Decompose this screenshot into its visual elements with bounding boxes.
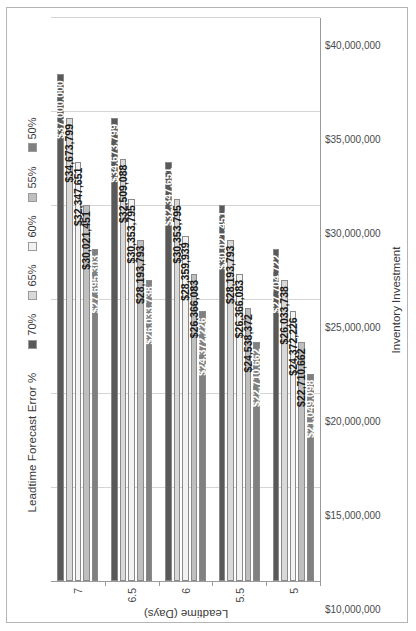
legend-swatch-icon	[28, 291, 37, 300]
legend-item-label: 70%	[26, 314, 38, 336]
value-axis-label-row: $10,000,000$15,000,000$20,000,000$25,000…	[325, 18, 385, 582]
bar-row: $26,366,083	[235, 18, 244, 581]
plot-area: $37,000,000$34,673,799$32,347,651$30,021…	[51, 18, 321, 582]
bar-row: $26,366,083	[190, 18, 199, 581]
legend-item-55[interactable]: 55%	[26, 167, 38, 202]
category-tick-label: 7	[72, 588, 84, 594]
category-axis-ticks: 76.565.55	[51, 582, 321, 606]
legend-swatch-icon	[28, 340, 37, 349]
bar-50-6[interactable]: $24,372,226	[199, 311, 206, 581]
bar-group: $32,347,651$30,353,795$28,359,939$26,366…	[159, 18, 213, 581]
bar-row: $32,347,651	[164, 18, 173, 581]
legend-swatch-icon	[28, 144, 37, 153]
chart-frame-border: Leadtime Forecast Error % 70%65%60%55%50…	[6, 7, 408, 623]
bar-50-7[interactable]: $27,695,303	[92, 249, 99, 581]
value-axis-tick-label: $35,000,000	[325, 134, 381, 145]
bar-row: $32,509,088	[119, 18, 128, 581]
bar-row: $24,372,226	[198, 18, 207, 581]
x-axis-title: Leadtime (Days)	[51, 606, 321, 622]
bar-row: $27,695,303	[91, 18, 100, 581]
bar-row: $34,673,799	[65, 18, 74, 581]
legend-item-50[interactable]: 50%	[26, 117, 38, 152]
bar-50-5.5[interactable]: $22,710,662	[253, 342, 260, 581]
bar-row: $37,000,000	[56, 18, 65, 581]
category-tick-label: 6.5	[126, 588, 138, 603]
bar-row: $22,710,662	[252, 18, 261, 581]
bar-value-label: $24,372,226	[197, 312, 208, 375]
bar-group: $27,704,722$26,033,738$24,372,226$22,710…	[266, 18, 320, 581]
bar-group: $34,673,799$32,509,088$30,353,795$28,193…	[105, 18, 159, 581]
bar-50-6.5[interactable]: $26,033,738	[146, 280, 153, 581]
value-axis-tick-label: $30,000,000	[325, 228, 381, 239]
bar-value-label: $26,033,738	[144, 281, 155, 344]
bar-row: $26,033,738	[145, 18, 154, 581]
chart-page: Leadtime Forecast Error % 70%65%60%55%50…	[0, 0, 416, 631]
bar-group: $30,021,451$28,193,793$26,366,083$24,538…	[212, 18, 266, 581]
bar-group: $37,000,000$34,673,799$32,347,651$30,021…	[51, 18, 105, 581]
legend-item-label: 50%	[26, 117, 38, 139]
chart-root: Leadtime Forecast Error % 70%65%60%55%50…	[7, 8, 407, 622]
legend-title: Leadtime Forecast Error %	[26, 373, 38, 513]
value-axis-tick-label: $25,000,000	[325, 322, 381, 333]
value-axis-tick-label: $10,000,000	[325, 604, 381, 615]
bar-value-label: $27,695,303	[90, 250, 101, 313]
x-axis-title-text: Leadtime (Days)	[144, 608, 228, 620]
category-tick-label: 6	[180, 588, 192, 594]
bar-55-5[interactable]: $22,710,662	[298, 342, 305, 581]
legend-item-60[interactable]: 60%	[26, 216, 38, 251]
legend-swatch-icon	[28, 242, 37, 251]
bar-value-label: $22,710,662	[251, 343, 262, 406]
y-axis-title-text: Inventory Investment	[390, 247, 402, 354]
plot-wrapper: Inventory Investment $37,000,000$34,673,…	[51, 8, 407, 622]
legend-item-label: 60%	[26, 216, 38, 238]
bar-row: $24,538,372	[244, 18, 253, 581]
legend-item-70[interactable]: 70%	[26, 314, 38, 349]
value-axis-tick-label: $40,000,000	[325, 40, 381, 51]
bar-50-5[interactable]: $21,049,098	[307, 374, 314, 581]
y-axis-title: Inventory Investment	[387, 18, 405, 582]
bar-value-label: $21,049,098	[305, 375, 316, 438]
value-axis-tick-label: $15,000,000	[325, 510, 381, 521]
bar-row: $26,033,738	[280, 18, 289, 581]
category-tick-label: 5	[288, 588, 300, 594]
legend-item-label: 55%	[26, 167, 38, 189]
bar-row: $32,347,651	[74, 18, 83, 581]
value-axis-tick-label: $20,000,000	[325, 416, 381, 427]
bar-row: $34,673,799	[110, 18, 119, 581]
legend-items: 70%65%60%55%50%	[26, 117, 38, 348]
bar-row: $24,372,226	[289, 18, 298, 581]
bar-row: $22,710,662	[297, 18, 306, 581]
bar-row: $21,049,098	[306, 18, 315, 581]
category-tick-label: 5.5	[234, 588, 246, 603]
legend-item-65[interactable]: 65%	[26, 265, 38, 300]
chart-legend: Leadtime Forecast Error % 70%65%60%55%50…	[15, 8, 49, 622]
legend-item-label: 65%	[26, 265, 38, 287]
rotated-chart-container: Leadtime Forecast Error % 70%65%60%55%50…	[7, 8, 407, 622]
legend-swatch-icon	[28, 193, 37, 202]
